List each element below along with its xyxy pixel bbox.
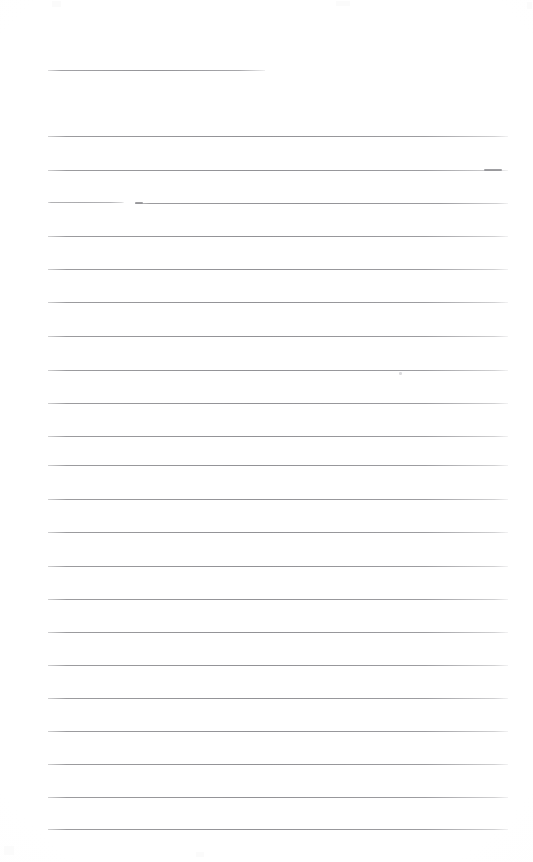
scanned-page — [0, 0, 533, 862]
scan-speck-top-right — [527, 2, 532, 9]
writing-area[interactable] — [48, 60, 508, 840]
scan-speck-top-center — [336, 1, 350, 6]
scan-speck-bottom-center — [196, 852, 204, 857]
scan-speck-bottom-left — [4, 846, 14, 855]
scan-speck-top-left — [52, 1, 61, 7]
